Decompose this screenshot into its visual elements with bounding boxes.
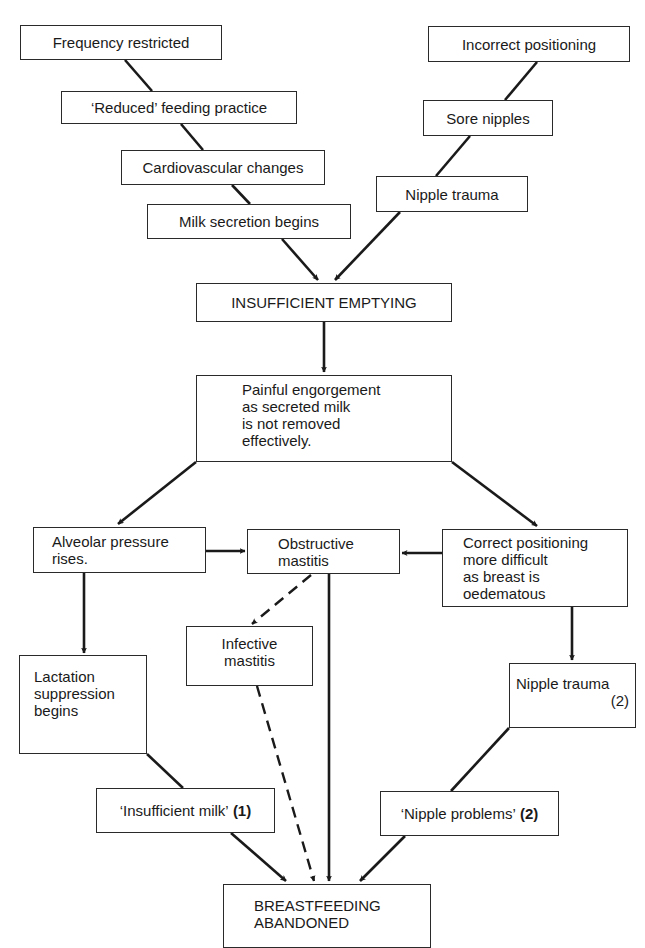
node-alveolar-pressure-rises: Alveolar pressure rises. bbox=[33, 527, 206, 573]
edge-insufficient-milk-to-abandoned bbox=[231, 833, 286, 881]
node-nipple-trauma-top: Nipple trauma bbox=[376, 176, 528, 212]
node-cardiovascular-changes: Cardiovascular changes bbox=[121, 150, 325, 185]
edge-infective-to-abandoned bbox=[257, 686, 314, 881]
node-label: INSUFFICIENT EMPTYING bbox=[231, 294, 417, 311]
node-label-line: mastitis bbox=[187, 652, 312, 669]
node-label-line: ABANDONED bbox=[254, 914, 430, 931]
node-label-line: mastitis bbox=[278, 552, 399, 569]
node-sore-nipples: Sore nipples bbox=[423, 100, 553, 136]
node-frequency-restricted: Frequency restricted bbox=[20, 25, 222, 60]
node-nipple-problems: ‘Nipple problems’ (2) bbox=[380, 791, 559, 836]
edge-lactation-to-insufficient-milk bbox=[147, 754, 183, 788]
node-label-line: Obstructive bbox=[278, 535, 399, 552]
node-label-line: effectively. bbox=[242, 432, 451, 449]
node-insufficient-emptying: INSUFFICIENT EMPTYING bbox=[196, 283, 452, 322]
node-infective-mastitis: Infective mastitis bbox=[186, 626, 313, 686]
node-label-line: rises. bbox=[52, 550, 205, 567]
node-label-line: Infective bbox=[187, 635, 312, 652]
node-label: Frequency restricted bbox=[53, 34, 190, 51]
node-label-line: as breast is bbox=[463, 568, 627, 585]
node-nipple-trauma-bottom: Nipple trauma (2) bbox=[509, 663, 636, 728]
node-painful-engorgement: Painful engorgement as secreted milk is … bbox=[196, 375, 452, 462]
node-label: Milk secretion begins bbox=[179, 213, 319, 230]
node-incorrect-positioning: Incorrect positioning bbox=[428, 26, 630, 62]
footnote-ref: (2) bbox=[520, 805, 538, 822]
edge-obstructive-to-infective bbox=[252, 575, 311, 624]
node-label: Incorrect positioning bbox=[462, 36, 596, 53]
edge-milk-to-emptying bbox=[282, 239, 318, 280]
node-label-line: oedematous bbox=[463, 585, 627, 602]
edge-cardiovascular-to-milk bbox=[232, 185, 250, 204]
node-label-line: as secreted milk bbox=[242, 398, 451, 415]
edge-incorrect-to-sore bbox=[505, 62, 537, 100]
node-label-line: Alveolar pressure bbox=[52, 533, 205, 550]
edge-sore-to-trauma bbox=[436, 136, 470, 176]
edge-engorgement-to-alveolar bbox=[118, 462, 196, 524]
node-label: ‘Nipple problems’ bbox=[401, 805, 516, 822]
edge-trauma2-to-nipple-problems bbox=[451, 728, 509, 791]
node-label: ‘Insufficient milk’ bbox=[120, 802, 229, 819]
node-label: ‘Reduced’ feeding practice bbox=[91, 99, 267, 116]
edge-engorgement-to-correct bbox=[452, 462, 537, 526]
node-milk-secretion-begins: Milk secretion begins bbox=[147, 204, 351, 239]
node-label-line: begins bbox=[34, 702, 146, 719]
node-label-line: is not removed bbox=[242, 415, 451, 432]
node-reduced-feeding-practice: ‘Reduced’ feeding practice bbox=[61, 91, 297, 124]
node-label: Nipple trauma bbox=[405, 186, 498, 203]
node-label: Cardiovascular changes bbox=[143, 159, 304, 176]
node-correct-positioning: Correct positioning more difficult as br… bbox=[442, 529, 628, 607]
footnote-ref: (1) bbox=[233, 802, 251, 819]
node-lactation-suppression-begins: Lactation suppression begins bbox=[19, 655, 147, 754]
node-label-line: Lactation bbox=[34, 668, 146, 685]
node-label-line: BREASTFEEDING bbox=[254, 897, 430, 914]
edge-frequency-to-reduced bbox=[125, 60, 152, 91]
node-label-line: suppression bbox=[34, 685, 146, 702]
footnote-ref: (2) bbox=[516, 692, 635, 709]
node-label-line: Correct positioning bbox=[463, 534, 627, 551]
node-obstructive-mastitis: Obstructive mastitis bbox=[247, 529, 400, 574]
edge-nipple-problems-to-abandoned bbox=[360, 836, 405, 881]
node-label-line: more difficult bbox=[463, 551, 627, 568]
node-insufficient-milk: ‘Insufficient milk’ (1) bbox=[96, 788, 275, 833]
node-breastfeeding-abandoned: BREASTFEEDING ABANDONED bbox=[223, 884, 431, 948]
node-label: Sore nipples bbox=[446, 110, 529, 127]
node-label-line: Painful engorgement bbox=[242, 381, 451, 398]
node-label-line: Nipple trauma bbox=[516, 675, 635, 692]
edge-reduced-to-cardiovascular bbox=[181, 124, 203, 150]
